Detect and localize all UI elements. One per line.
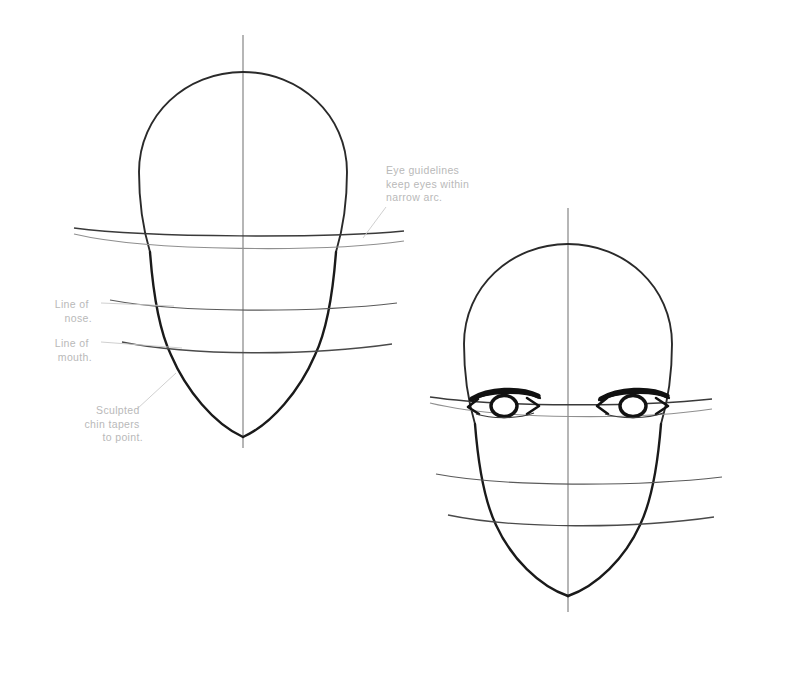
annotation-line-of-mouth-text: Line of mouth. <box>55 337 92 363</box>
head-construction-sheet: Eye guidelines keep eyes within narrow a… <box>0 0 785 687</box>
eye-right-iris <box>620 396 646 417</box>
eye-left-iris <box>491 396 517 417</box>
drawing-canvas: Eye guidelines keep eyes within narrow a… <box>0 0 785 687</box>
